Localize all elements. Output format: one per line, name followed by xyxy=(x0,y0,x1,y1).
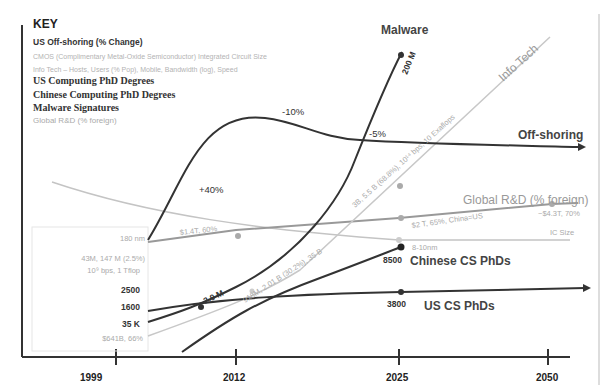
label-ic-size: IC Size xyxy=(550,228,574,237)
x-tick-label-2025: 2025 xyxy=(386,372,409,383)
label-offshoring: Off-shoring xyxy=(518,128,583,142)
key-entry-us-phd: US Computing PhD Degrees xyxy=(33,75,154,86)
start-us-phds: 2500 xyxy=(121,285,140,295)
key-entry-global-rd: Global R&D (% foreign) xyxy=(33,116,117,125)
key-entry-offshoring: US Off-shoring (% Change) xyxy=(33,37,143,47)
annot-ic-2025: 8-10nm xyxy=(412,243,437,252)
global-rd-point-2025 xyxy=(398,215,404,221)
malware-point-2025 xyxy=(398,52,404,58)
annot-offshoring-2025: -5% xyxy=(369,128,386,139)
annot-rd-2050: ~$4.3T, 70% xyxy=(538,209,580,218)
x-tick-label-2012: 2012 xyxy=(223,372,246,383)
key-entry-cmos: CMOS (Complimentary Metal-Oxide Semicond… xyxy=(33,53,267,61)
x-tick-label-2050: 2050 xyxy=(536,372,559,383)
annot-offshoring-dip: -10% xyxy=(282,106,305,117)
info-tech-point-2025 xyxy=(397,183,403,189)
annot-offshoring-peak: +40% xyxy=(199,184,224,195)
start-ic-size: 180 nm xyxy=(120,234,145,243)
cn-phds-point-2025 xyxy=(398,244,405,251)
key-entry-cn-phd: Chinese Computing PhD Degrees xyxy=(33,89,175,100)
start-global-rd: $641B, 66% xyxy=(102,334,143,343)
x-tick-label-1999: 1999 xyxy=(80,372,103,383)
malware-point-2012 xyxy=(198,304,204,310)
key-title: KEY xyxy=(33,17,58,31)
start-malware: 35 K xyxy=(122,319,141,329)
key-entry-infotech: Info Tech – Hosts, Users (% Pop), Mobile… xyxy=(33,66,238,74)
start-infotech-2: 10⁹ bps, 1 Tflop xyxy=(87,266,140,275)
start-cn-phds: 1600 xyxy=(121,302,140,312)
chart: 1999 2012 2025 2050 KEY US Off-shoring (… xyxy=(0,0,614,392)
label-cn-phds: Chinese CS PhDs xyxy=(410,254,511,268)
annot-us-2025: 3800 xyxy=(387,299,406,309)
label-global-rd: Global R&D (% foreign) xyxy=(463,193,588,207)
label-us-phds: US CS PhDs xyxy=(424,299,495,313)
label-malware: Malware xyxy=(381,23,429,37)
ic-size-point-2025 xyxy=(396,237,402,243)
global-rd-point-2012 xyxy=(235,233,241,239)
start-infotech-1: 43M, 147 M (2.5%) xyxy=(81,254,145,263)
key-entry-malware: Malware Signatures xyxy=(33,102,119,113)
us-phds-point-2025 xyxy=(398,289,404,295)
annot-cn-2025: 8500 xyxy=(383,255,402,265)
